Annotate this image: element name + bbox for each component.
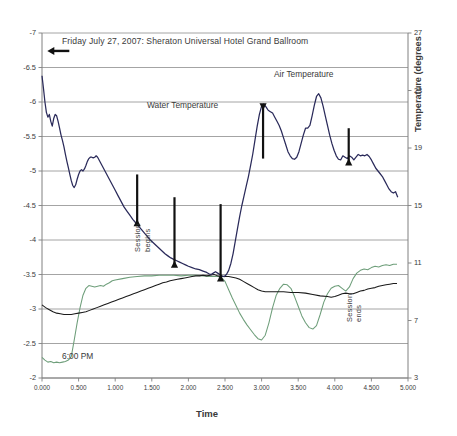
y-tick-left-10: -7 — [10, 28, 36, 37]
x-tick-2: 1.000 — [98, 384, 132, 391]
y-tick-left-7: -5.5 — [10, 132, 36, 141]
y-tick-left-6: -5 — [10, 166, 36, 175]
session-begins-label-0: Session — [133, 224, 142, 252]
y-tick-left-2: -3 — [10, 304, 36, 313]
session-begins-label-1: begins — [143, 228, 152, 252]
temperature-chart: Friday July 27, 2007: Sheraton Universal… — [0, 0, 457, 436]
annotation-arrows — [47, 47, 352, 282]
chart-canvas — [0, 0, 457, 436]
y-tick-left-4: -4 — [10, 235, 36, 244]
session-ends-label-1: ends — [354, 305, 363, 322]
y-tick-left-0: -2 — [10, 373, 36, 382]
y-tick-left-5: -4.5 — [10, 201, 36, 210]
annotation-clock-label: 6:00 PM — [62, 351, 93, 361]
y-tick-left-9: -6.5 — [10, 63, 36, 72]
x-tick-9: 4.500 — [354, 384, 388, 391]
series-label-air: Air Temperature — [274, 69, 333, 79]
x-tick-7: 3.500 — [281, 384, 315, 391]
y-tick-right-1: 23 — [414, 86, 440, 95]
x-tick-1: 0.500 — [62, 384, 96, 391]
y-tick-right-0: 27 — [414, 28, 440, 37]
y-tick-right-6: 3 — [414, 373, 440, 382]
y-tick-right-2: 19 — [414, 143, 440, 152]
y-axis-right-ticks — [408, 33, 412, 378]
gridlines — [42, 33, 408, 378]
x-tick-8: 4.000 — [318, 384, 352, 391]
y-tick-right-4: 11 — [414, 258, 440, 267]
y-tick-left-1: -2.5 — [10, 339, 36, 348]
x-tick-5: 2.500 — [208, 384, 242, 391]
y-tick-left-8: -6 — [10, 97, 36, 106]
x-axis-ticks — [42, 378, 408, 382]
x-tick-3: 1.500 — [135, 384, 169, 391]
y-tick-right-3: 15 — [414, 201, 440, 210]
y-tick-left-3: -3.5 — [10, 270, 36, 279]
chart-title: Friday July 27, 2007: Sheraton Universal… — [62, 36, 308, 46]
x-axis-label: Time — [196, 408, 218, 419]
y-axis-right-label: Temperature (degrees — [413, 36, 423, 132]
x-tick-4: 2.000 — [171, 384, 205, 391]
x-tick-6: 3.000 — [245, 384, 279, 391]
y-tick-right-5: 7 — [414, 316, 440, 325]
series-label-water: Water Temperature — [147, 100, 218, 110]
y-axis-left-ticks — [39, 33, 43, 378]
x-tick-0: 0.000 — [25, 384, 59, 391]
session-ends-label-0: Session — [345, 294, 354, 322]
x-tick-10: 5.000 — [391, 384, 425, 391]
